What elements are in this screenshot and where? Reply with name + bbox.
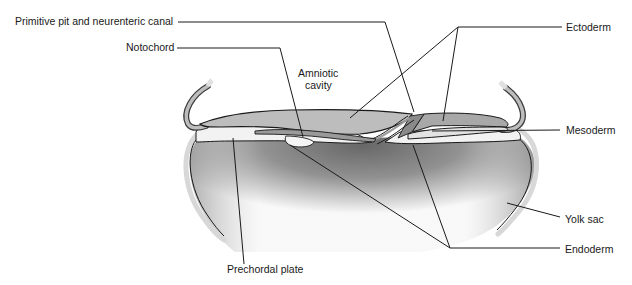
label-mesoderm: Mesoderm: [566, 124, 616, 136]
label-notochord: Notochord: [126, 41, 175, 53]
label-prechordal-plate: Prechordal plate: [227, 263, 304, 275]
embryo-diagram: Primitive pit and neurenteric canal Noto…: [0, 0, 632, 285]
label-yolk-sac: Yolk sac: [565, 213, 604, 225]
label-endoderm: Endoderm: [565, 243, 614, 255]
label-amniotic-cavity-1: Amniotic: [298, 67, 338, 79]
label-amniotic-cavity-2: cavity: [305, 79, 333, 91]
label-ectoderm: Ectoderm: [566, 21, 611, 33]
label-primitive-pit: Primitive pit and neurenteric canal: [15, 15, 173, 27]
